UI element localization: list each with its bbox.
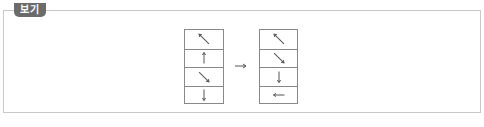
- grid-cell: [185, 30, 223, 49]
- arrow-down-right-icon: [196, 69, 212, 85]
- arrow-up-left-icon: [196, 31, 212, 47]
- arrow-right-icon: [234, 60, 248, 72]
- example-label-badge: 보기: [14, 3, 46, 17]
- grid-cell: [260, 49, 297, 68]
- grid-cell: [260, 30, 297, 49]
- arrow-down-icon: [271, 69, 287, 85]
- arrow-up-left-icon: [271, 31, 287, 47]
- grid-cell: [185, 86, 223, 105]
- arrow-down-icon: [196, 87, 212, 103]
- arrow-up-icon: [196, 50, 212, 66]
- arrow-down-right-icon: [271, 50, 287, 66]
- after-grid: [259, 29, 298, 104]
- grid-cell: [185, 67, 223, 86]
- arrow-left-icon: [271, 87, 287, 103]
- grid-cell: [185, 49, 223, 68]
- before-grid: [184, 29, 224, 104]
- grid-cell: [260, 67, 297, 86]
- grid-cell: [260, 86, 297, 105]
